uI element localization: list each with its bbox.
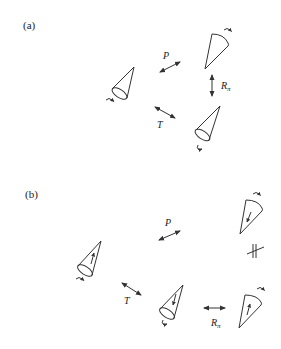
panel-a: (a) P Rπ T (23, 19, 232, 150)
double-arrow-icon (122, 283, 141, 295)
cone-icon (193, 106, 220, 143)
spin-curl-icon (106, 99, 114, 102)
cone-icon (240, 200, 263, 234)
cone-icon (239, 295, 262, 328)
operation-label-r: Rπ (220, 80, 231, 93)
spin-curl-icon (257, 288, 265, 291)
spin-curl-icon (76, 278, 84, 281)
inner-arrow-icon (91, 253, 94, 264)
inner-arrow-icon (247, 304, 250, 315)
figure-root: (a) P Rπ T (b) (0, 0, 281, 349)
spin-curl-icon (224, 29, 232, 32)
operation-label-p: P (162, 50, 169, 61)
double-arrow-icon (160, 62, 180, 72)
double-arrow-icon (159, 231, 180, 240)
cone-icon (158, 285, 183, 321)
panel-label-a: (a) (23, 19, 36, 32)
cone-icon (205, 34, 229, 69)
operation-label-r: Rπ (210, 317, 221, 330)
not-equal-icon (247, 244, 264, 258)
panel-label-b: (b) (25, 188, 38, 201)
operation-label-p: P (164, 217, 171, 228)
cone-icon (76, 241, 101, 278)
cone-icon (110, 67, 134, 101)
double-arrow-icon (155, 107, 175, 118)
operation-label-t: T (157, 119, 164, 130)
spin-curl-icon (197, 145, 202, 150)
spin-curl-icon (162, 320, 167, 325)
spin-curl-icon (253, 193, 261, 196)
operation-label-t: T (124, 295, 131, 306)
inner-arrow-icon (247, 212, 251, 222)
symmetry-diagram: (a) P Rπ T (b) (0, 0, 281, 349)
panel-b: (b) P T (25, 188, 265, 330)
